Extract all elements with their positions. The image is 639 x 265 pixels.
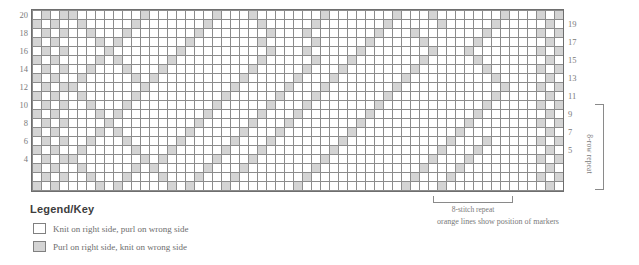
chart-cell	[276, 20, 285, 29]
chart-cell	[528, 182, 537, 191]
chart-cell	[357, 83, 366, 92]
chart-cell	[438, 74, 447, 83]
chart-cell	[375, 20, 384, 29]
chart-cell	[438, 47, 447, 56]
chart-cell	[321, 173, 330, 182]
chart-cell	[141, 119, 150, 128]
chart-cell	[384, 164, 393, 173]
chart-cell	[330, 56, 339, 65]
chart-cell	[267, 101, 276, 110]
chart-cell	[195, 20, 204, 29]
chart-cell	[105, 110, 114, 119]
chart-cell	[357, 92, 366, 101]
chart-cell	[420, 173, 429, 182]
chart-cell	[474, 173, 483, 182]
chart-cell	[330, 173, 339, 182]
chart-cell	[555, 11, 564, 20]
chart-cell	[204, 173, 213, 182]
chart-cell	[123, 137, 132, 146]
chart-cell	[321, 182, 330, 191]
chart-cell	[312, 11, 321, 20]
chart-cell	[447, 164, 456, 173]
chart-cell	[384, 47, 393, 56]
chart-cell	[249, 164, 258, 173]
chart-cell	[393, 83, 402, 92]
chart-cell	[177, 146, 186, 155]
chart-cell	[294, 173, 303, 182]
chart-cell	[483, 11, 492, 20]
chart-cell	[285, 29, 294, 38]
chart-cell	[303, 101, 312, 110]
chart-cell	[501, 146, 510, 155]
chart-cell	[204, 20, 213, 29]
chart-cell	[420, 20, 429, 29]
chart-cell	[546, 119, 555, 128]
chart-cell	[465, 20, 474, 29]
chart-cell	[150, 128, 159, 137]
chart-cell	[123, 164, 132, 173]
row-number-left: 6	[8, 137, 28, 146]
chart-cell	[519, 83, 528, 92]
chart-cell	[348, 47, 357, 56]
chart-cell	[438, 20, 447, 29]
chart-cell	[258, 92, 267, 101]
chart-cell	[114, 11, 123, 20]
chart-cell	[537, 38, 546, 47]
chart-cell	[474, 92, 483, 101]
chart-cell	[537, 101, 546, 110]
chart-cell	[501, 92, 510, 101]
chart-cell	[186, 101, 195, 110]
chart-cell	[78, 92, 87, 101]
chart-cell	[456, 119, 465, 128]
chart-cell	[204, 155, 213, 164]
chart-cell	[258, 137, 267, 146]
chart-cell	[429, 29, 438, 38]
chart-cell	[96, 173, 105, 182]
chart-cell	[159, 92, 168, 101]
chart-cell	[213, 38, 222, 47]
chart-cell	[366, 182, 375, 191]
chart-cell	[42, 119, 51, 128]
chart-cell	[393, 101, 402, 110]
chart-cell	[213, 47, 222, 56]
chart-cell	[177, 11, 186, 20]
chart-cell	[519, 74, 528, 83]
chart-cell	[465, 137, 474, 146]
chart-cell	[141, 146, 150, 155]
chart-cell	[267, 20, 276, 29]
row-number-left: 14	[8, 65, 28, 74]
chart-cell	[96, 47, 105, 56]
chart-cell	[33, 155, 42, 164]
chart-cell	[294, 92, 303, 101]
chart-cell	[366, 101, 375, 110]
chart-cell	[141, 29, 150, 38]
chart-cell	[537, 164, 546, 173]
chart-cell	[375, 92, 384, 101]
chart-cell	[339, 20, 348, 29]
chart-cell	[132, 74, 141, 83]
chart-cell	[528, 119, 537, 128]
chart-cell	[510, 56, 519, 65]
chart-row	[33, 92, 564, 101]
chart-cell	[510, 173, 519, 182]
chart-row	[33, 128, 564, 137]
chart-cell	[546, 128, 555, 137]
chart-cell	[321, 29, 330, 38]
chart-cell	[402, 74, 411, 83]
chart-cell	[330, 47, 339, 56]
chart-cell	[177, 128, 186, 137]
chart-cell	[303, 47, 312, 56]
chart-cell	[348, 137, 357, 146]
chart-cell	[114, 92, 123, 101]
chart-cell	[150, 101, 159, 110]
chart-cell	[240, 155, 249, 164]
chart-cell	[429, 74, 438, 83]
chart-cell	[276, 164, 285, 173]
chart-cell	[150, 20, 159, 29]
chart-cell	[528, 38, 537, 47]
chart-cell	[150, 83, 159, 92]
chart-cell	[87, 128, 96, 137]
chart-cell	[537, 173, 546, 182]
chart-cell	[60, 11, 69, 20]
chart-cell	[330, 146, 339, 155]
